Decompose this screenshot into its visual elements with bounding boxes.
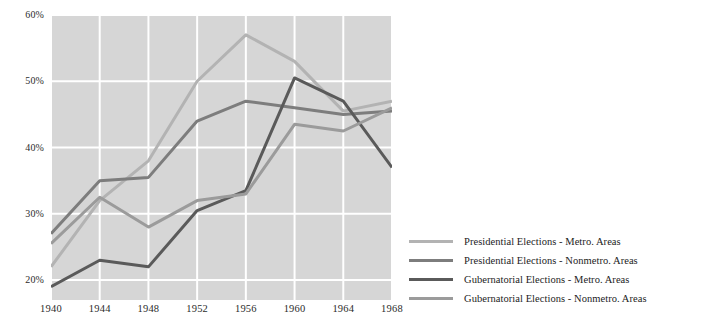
legend-item[interactable]: Gubernatorial Elections - Metro. Areas	[409, 270, 701, 289]
legend-item-label: Gubernatorial Elections - Nonmetro. Area…	[464, 293, 647, 304]
legend-swatch-icon	[409, 259, 453, 262]
legend-item[interactable]: Presidential Elections - Metro. Areas	[409, 232, 701, 251]
y-tick-label: 50%	[0, 75, 44, 86]
legend-item-label: Gubernatorial Elections - Metro. Areas	[464, 274, 629, 285]
y-tick-label: 30%	[0, 208, 44, 219]
chart-figure: 20%30%40%50%60% 194019441948195219561960…	[0, 0, 705, 333]
chart-legend: Presidential Elections - Metro. AreasPre…	[409, 232, 701, 308]
legend-item[interactable]: Gubernatorial Elections - Nonmetro. Area…	[409, 289, 701, 308]
legend-item[interactable]: Presidential Elections - Nonmetro. Areas	[409, 251, 701, 270]
series-line-0	[51, 35, 392, 267]
x-tick-label: 1968	[381, 303, 403, 314]
y-tick-label: 60%	[0, 9, 44, 20]
x-tick-label: 1956	[235, 303, 257, 314]
x-tick-label: 1944	[89, 303, 111, 314]
legend-swatch-icon	[409, 240, 453, 243]
y-tick-label: 40%	[0, 142, 44, 153]
y-tick-label: 20%	[0, 274, 44, 285]
x-axis-tick-labels: 19401944194819521956196019641968	[0, 303, 460, 325]
legend-item-label: Presidential Elections - Metro. Areas	[464, 236, 621, 247]
x-tick-label: 1952	[186, 303, 208, 314]
plot-area	[51, 15, 392, 300]
series-line-3	[51, 108, 392, 244]
y-axis-tick-labels: 20%30%40%50%60%	[0, 0, 46, 333]
x-tick-label: 1940	[40, 303, 62, 314]
x-tick-label: 1948	[138, 303, 160, 314]
legend-swatch-icon	[409, 278, 453, 281]
plot-svg	[51, 15, 392, 300]
legend-swatch-icon	[409, 297, 453, 300]
x-tick-label: 1964	[332, 303, 354, 314]
x-tick-label: 1960	[284, 303, 306, 314]
legend-item-label: Presidential Elections - Nonmetro. Areas	[464, 255, 638, 266]
